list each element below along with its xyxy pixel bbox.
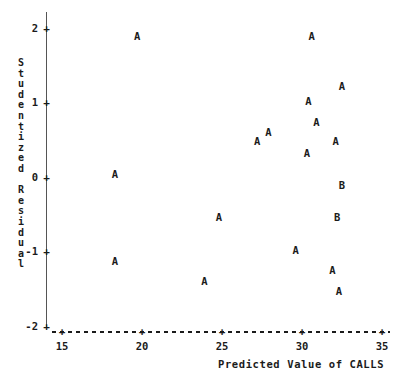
x-tick-label: 15 (47, 340, 77, 353)
data-point-b: B (338, 180, 347, 191)
data-point-a: A (328, 265, 337, 276)
x-tick-marker: + (377, 326, 388, 338)
x-axis-title: Predicted Value of CALLS (218, 358, 384, 370)
y-tick-marker: + (41, 172, 52, 183)
y-axis-title-char: l (14, 259, 28, 270)
y-axis-title-char: d (14, 164, 28, 175)
y-axis-title: Studentized Residual (14, 58, 28, 270)
x-tick-marker: + (217, 326, 228, 338)
x-tick-marker: + (297, 326, 308, 338)
y-axis-title-char: S (14, 58, 28, 69)
data-point-a: A (200, 276, 209, 287)
data-point-a: A (312, 117, 321, 128)
data-point-a: A (291, 245, 300, 256)
y-tick-label: 2 (8, 23, 38, 34)
data-point-a: A (334, 286, 343, 297)
x-tick-marker: + (57, 326, 68, 338)
data-point-a: A (307, 31, 316, 42)
x-tick-label: 25 (207, 340, 237, 353)
data-point-a: A (133, 31, 142, 42)
x-tick-marker: + (137, 326, 148, 338)
x-tick-label: 30 (287, 340, 317, 353)
y-tick-label-text: 2 (14, 23, 38, 34)
y-tick-label: -2 (8, 321, 38, 332)
data-point-b: B (333, 212, 342, 223)
data-point-a: A (338, 81, 347, 92)
data-point-a: A (304, 96, 313, 107)
data-point-a: A (110, 256, 119, 267)
data-point-a: A (110, 169, 119, 180)
x-tick-label: 20 (127, 340, 157, 353)
data-point-a: A (214, 212, 223, 223)
scatter-plot-figure: +2+1+0+-1+-2 Studentized Residual +15+20… (0, 0, 402, 375)
y-tick-marker: + (41, 246, 52, 257)
y-axis-title-char: i (14, 217, 28, 228)
y-tick-marker: + (41, 23, 52, 34)
x-tick-label: 35 (367, 340, 397, 353)
data-point-a: A (331, 136, 340, 147)
data-point-a: A (264, 127, 273, 138)
y-tick-marker: + (41, 321, 52, 332)
y-axis-title-char: n (14, 111, 28, 122)
data-point-a: A (253, 136, 262, 147)
y-tick-marker: + (41, 97, 52, 108)
data-point-a: A (302, 148, 311, 159)
y-axis-line (46, 12, 47, 327)
y-tick-label-text: -2 (14, 321, 38, 332)
